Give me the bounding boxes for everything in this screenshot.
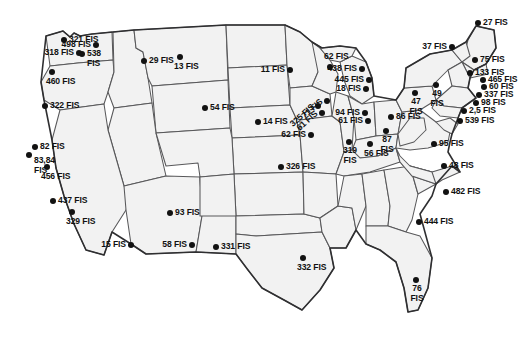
marker-label: 460 FIS — [46, 77, 75, 87]
marker-label: 27 FIS — [483, 18, 508, 28]
marker-dot-icon — [461, 108, 467, 114]
marker-label: 62 FIS — [281, 130, 306, 140]
marker-label: 538 FIS — [87, 49, 101, 68]
marker-label: 331 FIS — [221, 242, 250, 252]
marker-label: 76 FIS — [405, 284, 429, 303]
marker-label: 482 FIS — [451, 187, 480, 197]
marker-label: 58 FIS — [162, 240, 187, 250]
marker-label: 437 FIS — [58, 196, 87, 206]
marker-label: 456 FIS — [41, 172, 70, 182]
marker-dot-icon — [300, 255, 306, 261]
marker-label: 13 FIS — [174, 62, 199, 72]
marker-dot-icon — [177, 54, 183, 60]
marker-label: 61 FIS — [338, 116, 363, 126]
marker-dot-icon — [213, 244, 219, 250]
us-fis-locations-map: 321 FIS498 FIS318 FIS538 FIS460 FIS322 F… — [0, 0, 527, 350]
marker-dot-icon — [202, 105, 208, 111]
marker-dot-icon — [26, 152, 32, 158]
marker-label: 87 FIS — [375, 135, 399, 154]
marker-label: 322 FIS — [50, 101, 79, 111]
marker-label: 49 FIS — [425, 89, 449, 108]
marker-dot-icon — [50, 198, 56, 204]
marker-dot-icon — [44, 164, 50, 170]
marker-label: 14 FIS — [263, 117, 288, 127]
marker-dot-icon — [367, 141, 373, 147]
marker-label: 332 FIS — [297, 263, 326, 273]
marker-dot-icon — [449, 44, 455, 50]
marker-dot-icon — [141, 58, 147, 64]
marker-label: 319 FIS — [338, 146, 362, 165]
marker-label: 539 FIS — [465, 116, 494, 126]
marker-dot-icon — [167, 210, 173, 216]
marker-dot-icon — [472, 57, 478, 63]
marker-dot-icon — [363, 86, 369, 92]
marker-label: 95 FIS — [439, 139, 464, 149]
marker-dot-icon — [69, 209, 75, 215]
marker-dot-icon — [443, 189, 449, 195]
marker-dot-icon — [388, 114, 394, 120]
marker-label: 62 FIS — [324, 52, 349, 62]
marker-label: 54 FIS — [210, 103, 235, 113]
marker-dot-icon — [467, 70, 473, 76]
marker-label: 326 FIS — [286, 162, 315, 172]
marker-dot-icon — [480, 77, 486, 83]
marker-label: 444 FIS — [424, 217, 453, 227]
marker-label: 29 FIS — [149, 56, 174, 66]
marker-label: 82 FIS — [40, 142, 65, 152]
marker-dot-icon — [431, 141, 437, 147]
marker-dot-icon — [365, 118, 371, 124]
marker-dot-icon — [32, 144, 38, 150]
marker-dot-icon — [287, 67, 293, 73]
marker-label: 329 FIS — [66, 217, 95, 227]
marker-label: 75 FIS — [480, 55, 505, 65]
marker-dot-icon — [457, 118, 463, 124]
marker-label: 48 FIS — [449, 161, 474, 171]
marker-layer: 321 FIS498 FIS318 FIS538 FIS460 FIS322 F… — [0, 0, 527, 350]
marker-dot-icon — [416, 219, 422, 225]
marker-dot-icon — [189, 242, 195, 248]
marker-dot-icon — [475, 20, 481, 26]
marker-label: 438 FIS — [328, 64, 357, 74]
marker-dot-icon — [128, 242, 134, 248]
marker-dot-icon — [255, 119, 261, 125]
marker-label: 11 FIS — [261, 65, 285, 75]
marker-label: 37 FIS — [422, 42, 447, 52]
marker-dot-icon — [42, 103, 48, 109]
marker-label: 15 FIS — [101, 240, 126, 250]
marker-dot-icon — [79, 51, 85, 57]
marker-label: 18 FIS — [336, 84, 361, 94]
marker-dot-icon — [278, 164, 284, 170]
marker-dot-icon — [359, 66, 365, 72]
marker-label: 318 FIS — [45, 48, 74, 58]
marker-label: 93 FIS — [175, 208, 200, 218]
marker-dot-icon — [308, 132, 314, 138]
marker-dot-icon — [441, 163, 447, 169]
marker-dot-icon — [366, 77, 372, 83]
marker-dot-icon — [49, 69, 55, 75]
